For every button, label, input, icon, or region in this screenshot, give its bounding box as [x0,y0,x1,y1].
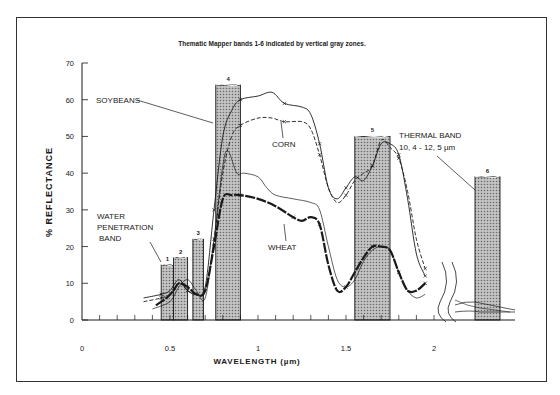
y-tick-label: 70 [66,59,74,68]
corn-leader [281,122,283,138]
x-marker [344,194,347,197]
y-tick-label: 40 [66,169,74,178]
water-label-2: PENETRATION [97,223,154,232]
y-tick-label: 50 [66,132,74,141]
band-number-5: 5 [371,127,375,133]
y-tick-label: 20 [66,243,74,252]
x-tick-label: 1 [256,344,260,353]
thermal-label-2: 10, 4 - 12, 5 µm [399,143,456,152]
x-tick-label: 2 [432,344,436,353]
band-4 [216,85,241,320]
corn-label: CORN [272,140,296,149]
band-number-4: 4 [226,76,230,82]
soybeans-label: SOYBEANS [96,96,140,105]
x-marker [344,186,347,189]
y-axis-label: % REFLECTANCE [44,147,54,237]
x-tick-label: 0 [80,344,84,353]
chart-title: Thematic Mapper bands 1-6 indicated by v… [178,40,366,48]
soybeans-leader [137,100,213,123]
thermal-leader [437,156,475,190]
y-tick-label: 30 [66,206,74,215]
band-number-3: 3 [196,230,200,236]
water-leader [150,242,161,262]
y-tick-label: 10 [66,279,74,288]
band-6 [475,177,500,320]
band-number-1: 1 [166,256,170,262]
band-3 [193,239,204,320]
reflectance-chart: Thematic Mapper bands 1-6 indicated by v… [0,0,560,395]
x-marker [424,274,427,277]
x-tick-label: 1.5 [341,344,351,353]
tm-bands: 123456 [161,76,500,320]
band-number-2: 2 [179,249,183,255]
band-number-6: 6 [486,168,490,174]
axis-break-mark [448,262,457,322]
water-label-1: WATER [97,212,125,221]
wheat-leader [284,224,286,241]
thermal-label-1: THERMAL BAND [399,131,462,140]
band-5 [355,136,390,320]
x-axis-label: WAVELENGTH (µm) [213,357,300,366]
x-tick-label: 0.5 [165,344,175,353]
axis-break-mark [438,262,447,322]
y-tick-label: 60 [66,96,74,105]
water-label-3: BAND [99,234,121,243]
y-tick-label: 0 [70,316,74,325]
wheat-label: WHEAT [268,243,296,252]
